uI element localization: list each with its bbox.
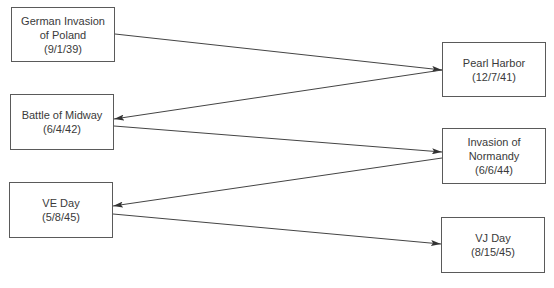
node-date: (8/15/45)	[471, 245, 515, 259]
arrow-pearl-harbor-to-midway	[114, 70, 442, 119]
node-label-line: VJ Day	[475, 231, 510, 245]
node-label-line: Pearl Harbor	[463, 56, 525, 70]
node-pearl-harbor: Pearl Harbor (12/7/41)	[442, 42, 546, 97]
node-battle-of-midway: Battle of Midway (6/4/42)	[10, 94, 114, 150]
node-label-line: VE Day	[42, 196, 79, 210]
arrow-midway-to-normandy	[114, 126, 442, 152]
node-label-line: of Poland	[40, 28, 86, 42]
node-german-invasion-of-poland: German Invasion of Poland (9/1/39)	[11, 7, 115, 62]
arrow-normandy-to-ve-day	[113, 158, 442, 206]
node-label-line: Normandy	[469, 149, 520, 163]
arrow-poland-to-pearl-harbor	[115, 34, 442, 70]
node-date: (12/7/41)	[472, 70, 516, 84]
node-date: (6/6/44)	[475, 163, 513, 177]
node-invasion-of-normandy: Invasion of Normandy (6/6/44)	[442, 128, 546, 184]
arrow-ve-day-to-vj-day	[113, 214, 441, 244]
node-vj-day: VJ Day (8/15/45)	[441, 217, 545, 273]
node-label-line: Battle of Midway	[22, 108, 103, 122]
node-date: (6/4/42)	[43, 122, 81, 136]
node-ve-day: VE Day (5/8/45)	[9, 182, 113, 238]
diagram-canvas: German Invasion of Poland (9/1/39) Pearl…	[0, 0, 554, 288]
node-label-line: Invasion of	[467, 135, 520, 149]
node-date: (9/1/39)	[44, 42, 82, 56]
node-label-line: German Invasion	[21, 14, 105, 28]
node-date: (5/8/45)	[42, 210, 80, 224]
